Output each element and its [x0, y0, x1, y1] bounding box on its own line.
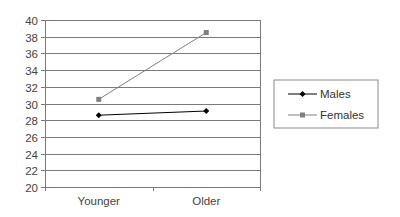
y-tick-label: 28: [25, 115, 38, 127]
y-tick-label: 30: [25, 99, 38, 111]
series-males: [96, 108, 210, 118]
y-tick-label: 40: [25, 15, 38, 27]
x-category-label: Younger: [78, 195, 121, 207]
legend-label-females: Females: [320, 109, 364, 121]
line-chart: 2022242628303234363840 YoungerOlder Male…: [0, 0, 400, 217]
x-axis: YoungerOlder: [46, 187, 261, 207]
square-marker-icon: [300, 113, 305, 118]
legend: Males Females: [274, 80, 378, 128]
series-females: [96, 30, 209, 102]
data-point: [96, 97, 101, 102]
data-point: [203, 108, 209, 114]
data-point: [204, 30, 209, 35]
y-tick-label: 24: [25, 149, 38, 161]
gridlines: [45, 21, 260, 188]
data-point: [96, 112, 102, 118]
y-tick-label: 34: [25, 65, 38, 77]
y-tick-label: 20: [25, 182, 38, 194]
y-tick-label: 32: [25, 82, 38, 94]
y-tick-label: 36: [25, 48, 38, 60]
y-tick-label: 22: [25, 165, 38, 177]
y-tick-label: 26: [25, 132, 38, 144]
legend-label-males: Males: [320, 88, 351, 100]
x-category-label: Older: [192, 195, 220, 207]
y-tick-label: 38: [25, 32, 38, 44]
